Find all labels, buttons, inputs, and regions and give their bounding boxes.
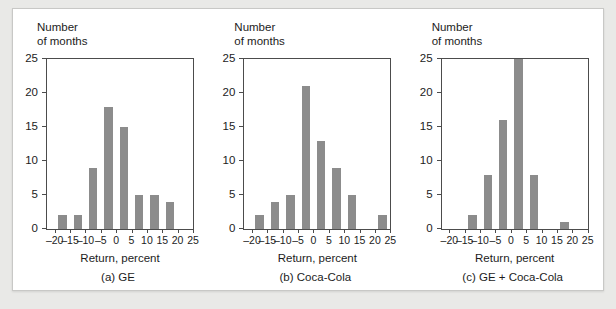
histogram-bar bbox=[317, 141, 325, 229]
x-tick--20: –20 bbox=[55, 229, 56, 230]
histogram-bar bbox=[286, 195, 294, 229]
x-tick-mark bbox=[390, 229, 391, 233]
y-tick-mark bbox=[437, 160, 442, 161]
x-tick-label: –5 bbox=[95, 234, 107, 246]
y-tick-mark bbox=[42, 228, 47, 229]
plot-inner-ge: 0510152025–20–15–10–50510152025 bbox=[47, 59, 193, 229]
y-tick-20: 20 bbox=[244, 92, 245, 93]
x-tick-mark bbox=[101, 229, 102, 233]
panel-caption-b: (b) Coca-Cola bbox=[230, 271, 400, 283]
x-tick-10: 10 bbox=[147, 229, 148, 230]
y-tick-25: 25 bbox=[442, 58, 443, 59]
x-tick-label: 20 bbox=[369, 234, 381, 246]
x-tick-label: 0 bbox=[311, 234, 317, 246]
x-tick-label: 20 bbox=[566, 234, 578, 246]
y-axis-title-line2-a: of months bbox=[37, 35, 88, 47]
y-tick-label: 0 bbox=[229, 222, 235, 234]
panel-ge-plus-coca-cola: Number of months 0510152025–20–15–10–505… bbox=[408, 9, 605, 292]
y-tick-label: 10 bbox=[420, 154, 433, 166]
x-tick--5: –5 bbox=[101, 229, 102, 230]
x-tick-5: 5 bbox=[132, 229, 133, 230]
y-tick-5: 5 bbox=[47, 194, 48, 195]
x-tick-25: 25 bbox=[390, 229, 391, 230]
x-tick-label: –5 bbox=[292, 234, 304, 246]
y-tick-label: 0 bbox=[32, 222, 38, 234]
y-tick-10: 10 bbox=[47, 160, 48, 161]
y-tick-mark bbox=[437, 92, 442, 93]
x-tick-label: 25 bbox=[582, 234, 594, 246]
x-tick--15: –15 bbox=[465, 229, 466, 230]
y-tick-mark bbox=[437, 126, 442, 127]
y-tick-10: 10 bbox=[442, 160, 443, 161]
x-tick-label: 10 bbox=[536, 234, 548, 246]
x-tick-20: 20 bbox=[178, 229, 179, 230]
plot-area-ge: 0510152025–20–15–10–50510152025 bbox=[46, 58, 194, 230]
x-tick-15: 15 bbox=[557, 229, 558, 230]
y-tick-25: 25 bbox=[47, 58, 48, 59]
histogram-bar bbox=[348, 195, 356, 229]
figure-frame: Number of months 0510152025–20–15–10–505… bbox=[12, 8, 604, 291]
y-tick-label: 15 bbox=[420, 120, 433, 132]
x-tick-mark bbox=[557, 229, 558, 233]
y-tick-mark bbox=[42, 160, 47, 161]
x-tick-mark bbox=[298, 229, 299, 233]
x-tick-label: 25 bbox=[187, 234, 199, 246]
histogram-bar bbox=[332, 168, 340, 229]
histogram-bar bbox=[255, 215, 263, 229]
y-tick-5: 5 bbox=[244, 194, 245, 195]
x-axis-title-a: Return, percent bbox=[46, 252, 194, 264]
x-tick-mark bbox=[495, 229, 496, 233]
panel-ge: Number of months 0510152025–20–15–10–505… bbox=[13, 9, 210, 292]
y-tick-20: 20 bbox=[442, 92, 443, 93]
y-tick-0: 0 bbox=[442, 228, 443, 229]
histogram-bar bbox=[89, 168, 97, 229]
x-tick-label: 0 bbox=[113, 234, 119, 246]
x-tick-mark bbox=[193, 229, 194, 233]
x-tick-label: –10 bbox=[77, 234, 95, 246]
panel-caption-a: (a) GE bbox=[33, 271, 203, 283]
x-tick-mark bbox=[283, 229, 284, 233]
x-tick-label: 15 bbox=[156, 234, 168, 246]
y-axis-title-line2-b: of months bbox=[234, 35, 285, 47]
x-tick-25: 25 bbox=[588, 229, 589, 230]
x-axis-title-c: Return, percent bbox=[441, 252, 589, 264]
histogram-bar bbox=[271, 202, 279, 229]
histogram-bar bbox=[484, 175, 492, 229]
x-tick-mark bbox=[116, 229, 117, 233]
y-tick-mark bbox=[437, 58, 442, 59]
x-tick-label: –10 bbox=[274, 234, 292, 246]
y-tick-mark bbox=[437, 194, 442, 195]
x-tick-mark bbox=[147, 229, 148, 233]
histogram-bar bbox=[530, 175, 538, 229]
histogram-bar bbox=[499, 120, 507, 229]
plot-inner-coca-cola: 0510152025–20–15–10–50510152025 bbox=[244, 59, 390, 229]
x-tick-20: 20 bbox=[375, 229, 376, 230]
x-tick-label: –5 bbox=[490, 234, 502, 246]
y-axis-title-a: Number of months bbox=[37, 21, 88, 48]
x-tick-0: 0 bbox=[116, 229, 117, 230]
y-tick-label: 25 bbox=[223, 52, 236, 64]
y-tick-label: 20 bbox=[223, 86, 236, 98]
plot-area-ge-plus-coca-cola: 0510152025–20–15–10–50510152025 bbox=[441, 58, 589, 230]
histogram-bar bbox=[560, 222, 568, 229]
x-tick--10: –10 bbox=[283, 229, 284, 230]
y-tick-mark bbox=[239, 126, 244, 127]
y-tick-mark bbox=[239, 160, 244, 161]
x-tick-5: 5 bbox=[526, 229, 527, 230]
y-axis-title-b: Number of months bbox=[234, 21, 285, 48]
y-axis-title-line1-b: Number bbox=[234, 21, 275, 33]
histogram-bar bbox=[166, 202, 174, 229]
y-tick-0: 0 bbox=[47, 228, 48, 229]
y-tick-mark bbox=[239, 228, 244, 229]
x-tick-15: 15 bbox=[360, 229, 361, 230]
x-tick-mark bbox=[572, 229, 573, 233]
x-tick-mark bbox=[252, 229, 253, 233]
x-tick-mark bbox=[588, 229, 589, 233]
x-tick-label: –10 bbox=[471, 234, 489, 246]
y-axis-title-c: Number of months bbox=[432, 21, 483, 48]
x-tick-label: 25 bbox=[384, 234, 396, 246]
y-tick-label: 15 bbox=[25, 120, 38, 132]
x-tick-label: 15 bbox=[551, 234, 563, 246]
y-tick-label: 10 bbox=[223, 154, 236, 166]
x-tick--10: –10 bbox=[85, 229, 86, 230]
